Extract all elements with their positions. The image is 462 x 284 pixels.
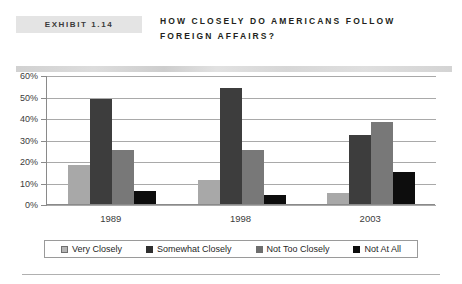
- x-axis-label: 1989: [46, 213, 176, 224]
- bar: [68, 165, 90, 204]
- bar: [198, 180, 220, 204]
- legend-item[interactable]: Very Closely: [61, 244, 122, 254]
- bar-group: [306, 75, 436, 204]
- exhibit-number-tag: EXHIBIT 1.14: [16, 16, 142, 33]
- x-axis-labels: 198919982003: [46, 213, 435, 224]
- chart-legend: Very CloselySomewhat CloselyNot Too Clos…: [44, 240, 418, 258]
- bar-group: [47, 75, 177, 204]
- bar: [393, 172, 415, 204]
- footer-divider: [22, 274, 440, 275]
- legend-swatch-icon: [146, 246, 153, 253]
- bar: [242, 150, 264, 204]
- plot-area: 0%10%20%30%40%50%60%: [46, 76, 435, 205]
- legend-label: Not At All: [364, 244, 401, 254]
- bar-groups: [47, 75, 436, 204]
- x-axis-label: 1998: [176, 213, 306, 224]
- legend-swatch-icon: [256, 246, 263, 253]
- y-axis-label: 0%: [4, 200, 38, 210]
- legend-item[interactable]: Not Too Closely: [256, 244, 330, 254]
- x-axis-label: 2003: [305, 213, 435, 224]
- bar: [112, 150, 134, 204]
- bar: [327, 193, 349, 204]
- legend-item[interactable]: Not At All: [353, 244, 401, 254]
- bar-chart: 0%10%20%30%40%50%60% 198919982003: [0, 68, 462, 218]
- y-axis-label: 40%: [4, 114, 38, 124]
- legend-label: Very Closely: [72, 244, 122, 254]
- legend-label: Not Too Closely: [267, 244, 330, 254]
- y-axis-tick: [41, 205, 47, 206]
- exhibit-header: EXHIBIT 1.14 HOW CLOSELY DO AMERICANS FO…: [0, 14, 462, 60]
- y-axis-label: 20%: [4, 157, 38, 167]
- y-axis-label: 50%: [4, 93, 38, 103]
- bar: [264, 195, 286, 204]
- legend-swatch-icon: [61, 246, 68, 253]
- y-axis-label: 30%: [4, 136, 38, 146]
- y-axis-label: 10%: [4, 179, 38, 189]
- bar: [371, 122, 393, 204]
- bar: [90, 99, 112, 204]
- legend-swatch-icon: [353, 246, 360, 253]
- bar: [349, 135, 371, 204]
- bar-group: [177, 75, 307, 204]
- legend-item[interactable]: Somewhat Closely: [146, 244, 232, 254]
- bar: [220, 88, 242, 204]
- page-title: HOW CLOSELY DO AMERICANS FOLLOW FOREIGN …: [160, 14, 450, 44]
- gridline: [47, 205, 436, 206]
- bar: [134, 191, 156, 204]
- legend-label: Somewhat Closely: [157, 244, 232, 254]
- y-axis-label: 60%: [4, 71, 38, 81]
